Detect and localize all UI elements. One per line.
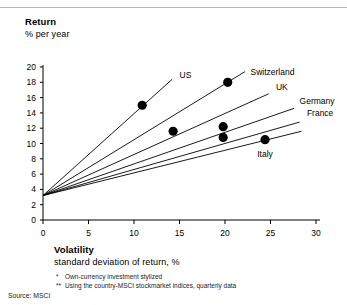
x-tick-label: 15 <box>175 228 185 238</box>
footnote-1-mark: * <box>56 272 65 281</box>
y-tick-label: 6 <box>31 169 36 179</box>
footnote-1: *Own-currency investment stylized <box>56 272 347 281</box>
series-label-uk: UK <box>276 82 288 92</box>
footnotes-block: *Own-currency investment stylized **Usin… <box>0 272 347 300</box>
series-line-uk <box>43 94 269 196</box>
data-point-france <box>219 133 228 142</box>
y-tick-label: 16 <box>27 93 37 103</box>
y-tick-label: 10 <box>27 139 37 149</box>
x-tick-label: 30 <box>311 228 321 238</box>
y-tick-label: 2 <box>31 200 36 210</box>
data-point-us <box>138 101 147 110</box>
series-label-switzerland: Switzerland <box>250 67 294 77</box>
x-tick-label: 10 <box>129 228 139 238</box>
series-label-france: France <box>307 108 334 118</box>
series-label-italy: Italy <box>257 149 273 159</box>
top-divider <box>0 7 347 8</box>
y-tick-label: 0 <box>31 215 36 225</box>
return-volatility-scatter-line-chart: 02468101214161820051015202530USSwitzerla… <box>0 48 347 248</box>
y-tick-label: 20 <box>27 62 37 72</box>
y-tick-label: 12 <box>27 123 37 133</box>
x-tick-label: 20 <box>220 228 230 238</box>
series-line-us <box>43 79 172 195</box>
series-label-germany: Germany <box>300 96 336 106</box>
data-point-germany <box>169 127 178 136</box>
footnote-2-mark: ** <box>56 281 65 290</box>
x-tick-label: 0 <box>41 228 46 238</box>
footnote-1-text: Own-currency investment stylized <box>65 273 162 280</box>
series-label-us: US <box>180 70 192 80</box>
x-axis-title-block: Volatility standard deviation of return,… <box>54 244 180 268</box>
x-axis-title: Volatility <box>54 244 180 256</box>
y-tick-label: 14 <box>27 108 37 118</box>
y-tick-label: 8 <box>31 154 36 164</box>
y-axis-title: Return <box>25 16 70 28</box>
x-axis-subtitle: standard deviation of return, % <box>54 256 180 268</box>
x-tick-label: 5 <box>86 228 91 238</box>
series-line-switzerland <box>43 72 245 196</box>
footnote-2: **Using the country-MSCI stockmarket ind… <box>56 281 347 290</box>
data-point-italy <box>260 135 269 144</box>
y-axis-subtitle: % per year <box>25 28 70 40</box>
source-line: Source: MSCI <box>8 291 347 300</box>
data-point-uk <box>219 122 228 131</box>
y-tick-label: 18 <box>27 77 37 87</box>
x-tick-label: 25 <box>266 228 276 238</box>
chart-plot-area: 02468101214161820051015202530USSwitzerla… <box>0 48 347 248</box>
y-axis-title-block: Return % per year <box>25 16 70 40</box>
footnote-2-text: Using the country-MSCI stockmarket indic… <box>65 282 236 289</box>
data-point-switzerland <box>223 78 232 87</box>
y-tick-label: 4 <box>31 184 36 194</box>
